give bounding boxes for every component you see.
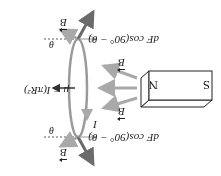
magnet-north-label: N bbox=[149, 79, 158, 92]
b-label-top: B bbox=[60, 147, 67, 158]
b-arrow-top bbox=[61, 137, 78, 146]
magnet-south-label: S bbox=[203, 79, 210, 92]
b-label-bottom: B bbox=[60, 17, 67, 28]
magnet-loop-diagram: S N μ = I(πR²) B B dF cos(90° − θ) dF co… bbox=[0, 0, 221, 176]
current-label: I bbox=[93, 119, 97, 130]
magnetic-moment-label: μ = I(πR²) bbox=[24, 85, 69, 96]
force-component-label-bottom: dF cos(90° − θ) bbox=[88, 34, 159, 45]
b-arrow-bottom bbox=[61, 30, 78, 39]
theta-label-bottom: θ bbox=[49, 39, 54, 49]
field-arrows bbox=[100, 66, 137, 108]
force-component-label-top: dF cos(90° − θ) bbox=[88, 132, 159, 143]
field-label-upper: B bbox=[118, 106, 125, 117]
theta-label-top: θ bbox=[49, 125, 54, 135]
field-label-lower: B bbox=[118, 57, 125, 68]
